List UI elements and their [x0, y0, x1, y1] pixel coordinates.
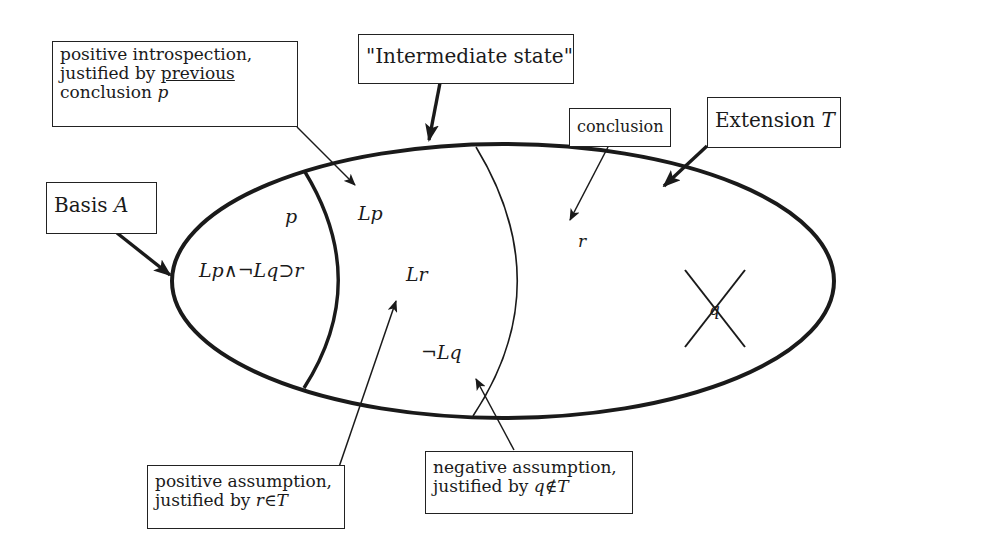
positive-introspection-math: p: [157, 82, 168, 102]
formula-not-Lq: ¬Lq: [421, 341, 462, 363]
basis-boundary: [304, 172, 338, 388]
extension-prefix: Extension: [715, 108, 822, 132]
arrow-negative-assumption: [476, 379, 514, 450]
conclusion-callout: conclusion: [569, 108, 671, 147]
intermediate-state-boundary: [473, 147, 517, 416]
formula-p: p: [285, 205, 297, 227]
formula-q-crossed: q: [709, 299, 720, 319]
formula-r: r: [578, 231, 586, 251]
positive-introspection-line2-prefix: justified by: [60, 63, 161, 83]
extension-math: T: [822, 108, 835, 132]
positive-assumption-callout: positive assumption, justified by r∈T: [147, 465, 345, 529]
positive-introspection-line3-prefix: conclusion: [60, 82, 157, 102]
negative-assumption-line1: negative assumption,: [433, 458, 625, 477]
intermediate-state-text: "Intermediate state": [366, 45, 566, 67]
arrow-positive-assumption: [339, 301, 396, 467]
basis-callout: Basis A: [46, 182, 157, 234]
positive-assumption-line2-prefix: justified by: [155, 490, 256, 510]
basis-prefix: Basis: [54, 193, 114, 217]
formula-rule: Lp∧¬Lq⊃r: [199, 259, 303, 281]
conclusion-text: conclusion: [577, 118, 663, 136]
arrow-conclusion: [570, 147, 608, 220]
arrow-extension: [664, 146, 707, 186]
formula-Lr: Lr: [406, 263, 428, 285]
positive-introspection-callout: positive introspection, justified by pre…: [52, 41, 298, 127]
extension-callout: Extension T: [707, 97, 841, 148]
positive-introspection-line1: positive introspection,: [60, 45, 290, 64]
arrow-intermediate-state: [429, 83, 440, 140]
extension-ellipse: [172, 144, 834, 418]
formula-Lp: Lp: [358, 202, 383, 224]
negative-assumption-math: q∉T: [534, 476, 569, 496]
negative-assumption-callout: negative assumption, justified by q∉T: [425, 451, 633, 514]
intermediate-state-callout: "Intermediate state": [358, 34, 574, 84]
previous-underlined: previous: [161, 63, 235, 83]
negative-assumption-line2-prefix: justified by: [433, 476, 534, 496]
arrow-basis: [117, 233, 170, 275]
positive-assumption-line1: positive assumption,: [155, 472, 337, 491]
positive-assumption-math: r∈T: [256, 490, 288, 510]
basis-math: A: [114, 193, 128, 217]
